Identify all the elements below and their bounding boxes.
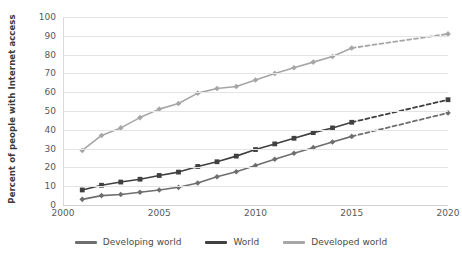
- y-axis-tick: 50: [45, 106, 56, 116]
- x-axis-tick: 2020: [437, 208, 460, 218]
- gridline: [63, 55, 448, 56]
- legend-label: Developed world: [311, 237, 387, 247]
- gridline: [63, 36, 448, 37]
- y-axis-tick: 60: [45, 87, 56, 97]
- data-point-marker: [349, 134, 355, 140]
- legend-label: Developing world: [103, 237, 182, 247]
- gridline: [63, 73, 448, 74]
- gridline: [63, 130, 448, 131]
- data-point-marker: [156, 187, 162, 193]
- y-axis-tick: 10: [45, 181, 56, 191]
- series-developing-world: [79, 110, 450, 202]
- y-axis-tick: 20: [45, 162, 56, 172]
- gridline: [63, 111, 448, 112]
- data-point-marker: [310, 59, 316, 65]
- data-point-marker: [233, 169, 239, 175]
- gridline: [63, 167, 448, 168]
- gridline: [63, 92, 448, 93]
- data-point-marker: [253, 77, 259, 83]
- plot-area: [63, 17, 448, 205]
- data-point-marker: [446, 97, 451, 102]
- data-point-marker: [80, 188, 85, 193]
- data-line: [82, 48, 352, 150]
- legend-item[interactable]: Developed world: [283, 237, 387, 247]
- legend-label: World: [233, 237, 259, 247]
- gridline: [63, 186, 448, 187]
- y-axis-tick: 30: [45, 144, 56, 154]
- data-point-marker: [137, 189, 143, 195]
- data-point-marker: [330, 139, 336, 145]
- data-point-marker: [272, 142, 277, 147]
- data-point-marker: [214, 174, 220, 180]
- y-axis-tick: 100: [39, 12, 56, 22]
- data-point-marker: [99, 193, 105, 199]
- legend-item[interactable]: World: [205, 237, 259, 247]
- x-axis-tick-labels: 20002005201020152020: [0, 205, 462, 225]
- chart-legend: Developing worldWorldDeveloped world: [0, 232, 462, 252]
- x-axis-tick: 2015: [340, 208, 363, 218]
- data-point-marker: [79, 197, 85, 203]
- data-point-marker: [157, 173, 162, 178]
- data-point-marker: [291, 65, 297, 71]
- data-point-marker: [214, 86, 220, 92]
- x-axis-tick: 2010: [244, 208, 267, 218]
- data-point-marker: [234, 154, 239, 159]
- y-axis-title: Percent of people with Internet access: [4, 14, 20, 204]
- data-point-marker: [118, 192, 124, 198]
- y-axis-tick: 40: [45, 125, 56, 135]
- y-axis-tick: 70: [45, 68, 56, 78]
- x-axis-tick: 2005: [148, 208, 171, 218]
- gridline: [63, 149, 448, 150]
- data-point-marker: [291, 151, 297, 157]
- x-axis-tick: 2000: [52, 208, 75, 218]
- data-point-marker: [215, 159, 220, 164]
- data-point-marker: [311, 130, 316, 135]
- data-point-marker: [349, 45, 355, 51]
- legend-swatch-icon: [283, 241, 305, 244]
- data-point-marker: [195, 180, 201, 186]
- data-point-marker: [176, 170, 181, 175]
- legend-swatch-icon: [205, 241, 227, 244]
- projection-line: [352, 113, 448, 137]
- line-chart: Percent of people with Internet access 0…: [0, 0, 462, 259]
- data-point-marker: [118, 180, 123, 185]
- data-point-marker: [233, 84, 239, 90]
- data-point-marker: [292, 136, 297, 141]
- y-axis-tick: 80: [45, 50, 56, 60]
- gridline: [63, 17, 448, 18]
- y-axis-tick: 90: [45, 31, 56, 41]
- y-axis-title-label: Percent of people with Internet access: [7, 14, 17, 203]
- data-point-marker: [349, 120, 354, 125]
- legend-item[interactable]: Developing world: [75, 237, 182, 247]
- data-point-marker: [138, 177, 143, 182]
- data-point-marker: [272, 157, 278, 163]
- legend-swatch-icon: [75, 241, 97, 244]
